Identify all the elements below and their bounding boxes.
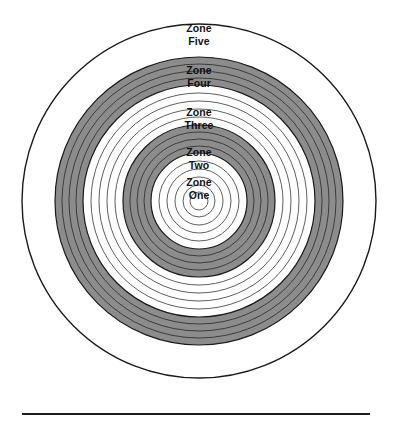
zone-ring-20 [190, 192, 208, 210]
bottom-divider-rule [22, 413, 370, 415]
concentric-zone-diagram [0, 0, 398, 423]
rings-group [22, 24, 376, 378]
